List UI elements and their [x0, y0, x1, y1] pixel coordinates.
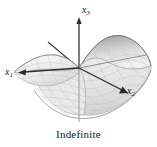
- axis-label-x2-subscript: 2: [131, 90, 135, 98]
- axis-label-x1-subscript: 1: [9, 71, 13, 79]
- indefinite-saddle-figure: x3 x1 x2 Indefinite: [0, 0, 157, 147]
- surface-plot-area: [0, 0, 157, 126]
- saddle-surface-svg: [0, 0, 157, 126]
- figure-caption: Indefinite: [0, 128, 157, 140]
- axis-label-x2: x2: [127, 86, 135, 96]
- axis-label-x1: x1: [5, 67, 13, 77]
- axis-label-x3: x3: [82, 5, 90, 15]
- saddle-surface: [14, 35, 151, 118]
- axis-label-x3-subscript: 3: [86, 9, 90, 17]
- x3-axis-upper: [76, 17, 81, 68]
